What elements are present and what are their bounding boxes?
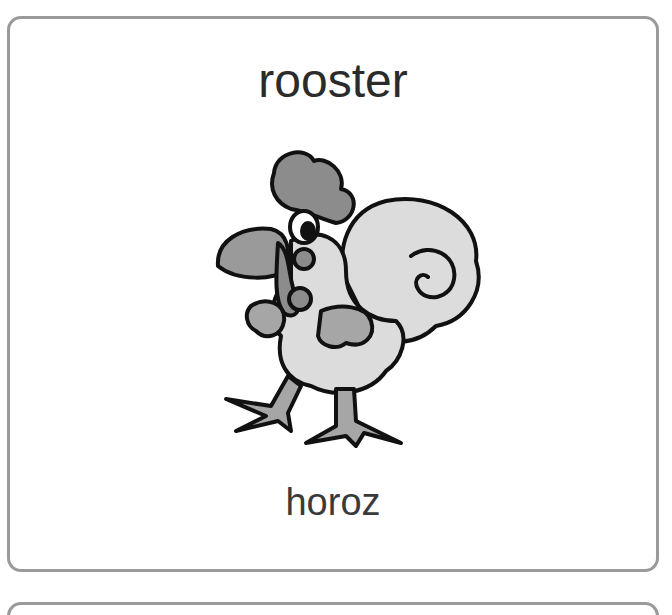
rooster-illustration (196, 131, 496, 461)
flashcard[interactable]: rooster horoz (7, 16, 659, 572)
translated-word: horoz (10, 481, 656, 524)
flashcard-next[interactable] (7, 602, 659, 615)
english-word: rooster (10, 53, 656, 108)
